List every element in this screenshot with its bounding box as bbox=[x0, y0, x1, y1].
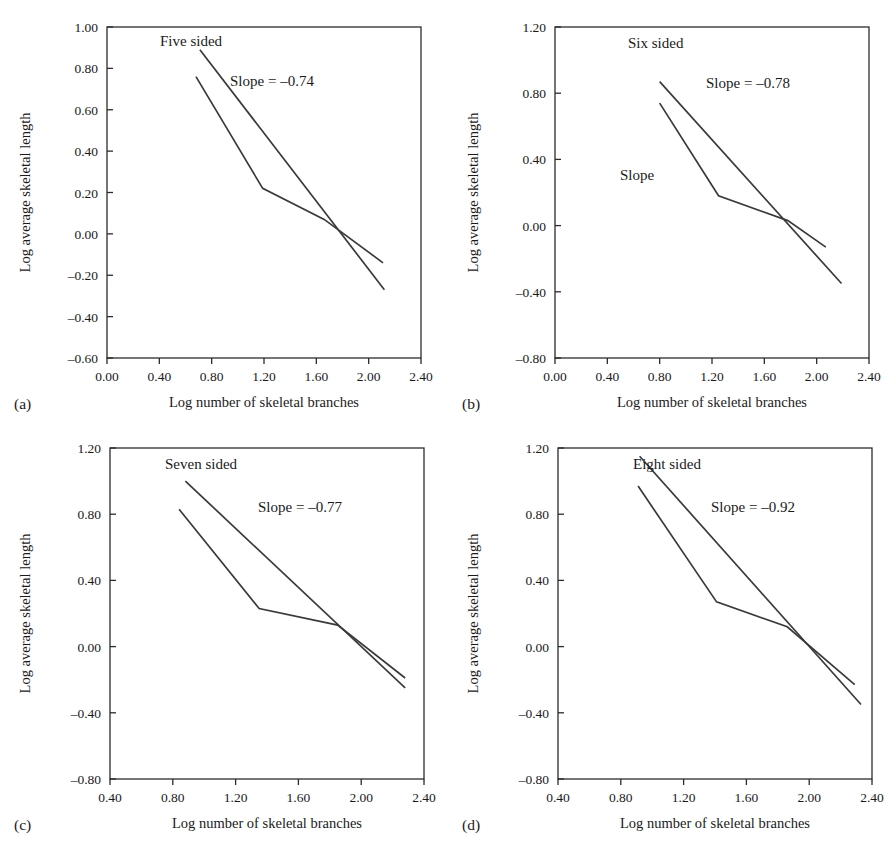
y-axis-title: Log average skeletal length bbox=[17, 533, 33, 694]
regression-line bbox=[660, 82, 842, 284]
panel-letter-b: (b) bbox=[462, 395, 480, 413]
x-tick-label: 0.40 bbox=[148, 369, 172, 384]
chart-panel-c: 0.400.801.201.602.002.401.200.800.400.00… bbox=[0, 424, 448, 848]
regression-line bbox=[640, 456, 861, 704]
x-tick-label: 1.60 bbox=[287, 790, 311, 805]
data-line bbox=[660, 103, 826, 247]
chart-canvas-a: 0.000.400.801.201.602.002.401.000.800.60… bbox=[0, 0, 448, 424]
chart-canvas-c: 0.400.801.201.602.002.401.200.800.400.00… bbox=[0, 424, 448, 848]
y-tick-label: 1.20 bbox=[77, 441, 101, 456]
y-tick-label: 0.80 bbox=[522, 86, 546, 101]
y-tick-label: –0.40 bbox=[67, 310, 99, 325]
x-tick-label: 0.40 bbox=[596, 369, 620, 384]
y-tick-label: –0.80 bbox=[518, 772, 550, 787]
x-axis-title: Log number of skeletal branches bbox=[617, 394, 807, 410]
x-tick-label: 1.60 bbox=[735, 790, 759, 805]
stray-slope-label: Slope bbox=[620, 167, 655, 183]
y-tick-label: 0.00 bbox=[77, 640, 101, 655]
panel-letter-a: (a) bbox=[14, 395, 31, 413]
x-tick-label: 2.00 bbox=[797, 790, 821, 805]
chart-panel-a: 0.000.400.801.201.602.002.401.000.800.60… bbox=[0, 0, 448, 424]
y-tick-label: –0.40 bbox=[518, 706, 550, 721]
x-tick-label: 2.40 bbox=[412, 790, 436, 805]
x-tick-label: 0.40 bbox=[98, 790, 122, 805]
y-tick-label: 0.40 bbox=[522, 152, 546, 167]
x-tick-label: 1.20 bbox=[252, 369, 276, 384]
x-tick-label: 1.20 bbox=[672, 790, 696, 805]
y-axis: 1.000.800.600.400.200.00–0.20–0.40–0.60 bbox=[67, 20, 113, 366]
chart-panel-d: 0.400.801.201.602.002.401.200.800.400.00… bbox=[448, 424, 896, 848]
data-line bbox=[196, 77, 383, 263]
x-tick-label: 2.40 bbox=[857, 369, 881, 384]
x-tick-label: 0.00 bbox=[95, 369, 119, 384]
y-axis-title: Log average skeletal length bbox=[17, 112, 33, 273]
y-tick-label: 0.60 bbox=[74, 103, 98, 118]
y-tick-label: 0.00 bbox=[525, 640, 549, 655]
data-line bbox=[638, 486, 855, 685]
x-axis-title: Log number of skeletal branches bbox=[172, 815, 362, 831]
y-tick-label: 0.80 bbox=[74, 61, 98, 76]
x-tick-label: 1.60 bbox=[753, 369, 777, 384]
series-label: Five sided bbox=[160, 33, 223, 49]
x-axis: 0.400.801.201.602.002.40 bbox=[98, 779, 436, 805]
x-tick-label: 2.40 bbox=[409, 369, 433, 384]
x-tick-label: 2.40 bbox=[860, 790, 884, 805]
y-tick-label: –0.80 bbox=[515, 351, 547, 366]
slope-annotation: Slope = –0.77 bbox=[258, 499, 342, 515]
panel-letter-d: (d) bbox=[462, 816, 480, 834]
figure-root: 0.000.400.801.201.602.002.401.000.800.60… bbox=[0, 0, 896, 848]
y-tick-label: 0.00 bbox=[522, 219, 546, 234]
x-tick-label: 0.80 bbox=[648, 369, 672, 384]
y-tick-label: 0.00 bbox=[74, 227, 98, 242]
y-tick-label: –0.40 bbox=[70, 706, 102, 721]
y-tick-label: 0.80 bbox=[525, 507, 549, 522]
y-tick-label: 1.20 bbox=[525, 441, 549, 456]
y-tick-label: –0.40 bbox=[515, 285, 547, 300]
x-tick-label: 2.00 bbox=[349, 790, 373, 805]
x-axis: 0.000.400.801.201.602.002.40 bbox=[543, 358, 881, 384]
plot-frame bbox=[110, 448, 424, 779]
x-tick-label: 1.20 bbox=[700, 369, 724, 384]
y-axis: 1.200.800.400.00–0.40–0.80 bbox=[70, 441, 116, 787]
x-tick-label: 0.80 bbox=[200, 369, 224, 384]
y-tick-label: 0.40 bbox=[77, 573, 101, 588]
x-tick-label: 1.60 bbox=[305, 369, 329, 384]
y-axis-title: Log average skeletal length bbox=[465, 533, 481, 694]
y-axis-title: Log average skeletal length bbox=[465, 112, 481, 273]
series-label: Eight sided bbox=[633, 456, 701, 472]
series-label: Seven sided bbox=[165, 456, 238, 472]
x-tick-label: 1.20 bbox=[224, 790, 248, 805]
plot-frame bbox=[558, 448, 872, 779]
x-axis: 0.400.801.201.602.002.40 bbox=[546, 779, 884, 805]
slope-annotation: Slope = –0.92 bbox=[711, 499, 795, 515]
y-tick-label: 0.80 bbox=[77, 507, 101, 522]
chart-canvas-d: 0.400.801.201.602.002.401.200.800.400.00… bbox=[448, 424, 896, 848]
x-axis-title: Log number of skeletal branches bbox=[620, 815, 810, 831]
x-tick-label: 0.80 bbox=[161, 790, 185, 805]
y-tick-label: –0.60 bbox=[67, 351, 99, 366]
y-tick-label: –0.80 bbox=[70, 772, 102, 787]
y-tick-label: 0.20 bbox=[74, 186, 98, 201]
y-tick-label: 1.20 bbox=[522, 20, 546, 35]
slope-annotation: Slope = –0.74 bbox=[230, 73, 314, 89]
x-tick-label: 0.40 bbox=[546, 790, 570, 805]
x-axis-title: Log number of skeletal branches bbox=[169, 394, 359, 410]
x-tick-label: 0.00 bbox=[543, 369, 567, 384]
y-tick-label: 1.00 bbox=[74, 20, 98, 35]
panel-letter-c: (c) bbox=[14, 816, 31, 834]
chart-canvas-b: 0.000.400.801.201.602.002.401.200.800.40… bbox=[448, 0, 896, 424]
x-axis: 0.000.400.801.201.602.002.40 bbox=[95, 358, 433, 384]
y-tick-label: 0.40 bbox=[525, 573, 549, 588]
data-line bbox=[179, 509, 405, 678]
x-tick-label: 2.00 bbox=[805, 369, 829, 384]
chart-panel-b: 0.000.400.801.201.602.002.401.200.800.40… bbox=[448, 0, 896, 424]
x-tick-label: 2.00 bbox=[357, 369, 381, 384]
slope-annotation: Slope = –0.78 bbox=[706, 75, 790, 91]
y-axis: 1.200.800.400.00–0.40–0.80 bbox=[518, 441, 564, 787]
series-label: Six sided bbox=[628, 35, 684, 51]
x-tick-label: 0.80 bbox=[609, 790, 633, 805]
y-tick-label: –0.20 bbox=[67, 268, 99, 283]
y-axis: 1.200.800.400.00–0.40–0.80 bbox=[515, 20, 561, 366]
y-tick-label: 0.40 bbox=[74, 144, 98, 159]
